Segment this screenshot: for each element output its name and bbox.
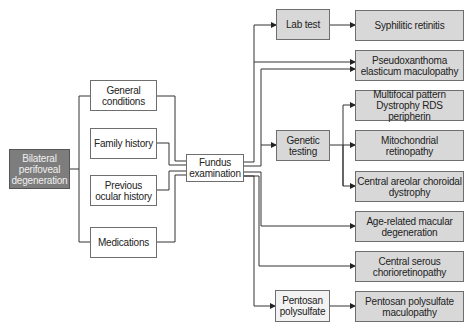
central-areolar-choroidal-dystrophy-box: Central areolar choroidal dystrophy	[355, 171, 464, 202]
multifocal-pattern-dystrophy-box: Multifocal pattern Dystrophy RDS periphe…	[355, 90, 464, 121]
pentosan-polysulfate-maculopathy-box: Pentosan polysulfate maculopathy	[355, 291, 464, 322]
syphilitic-retinitis-box: Syphilitic retinitis	[355, 10, 464, 41]
pentosan-line-1: Pentosan	[282, 295, 323, 306]
outcome-ppm-line-2: maculopathy	[382, 307, 437, 318]
start-label-line-1: Bilateral	[22, 153, 56, 164]
central-serous-chorioretinopathy-box: Central serous chorioretinopathy	[355, 251, 464, 282]
lab-line-1: Lab test	[286, 19, 320, 30]
lab-test-box: Lab test	[276, 9, 330, 40]
outcome-csc-line-2: chorioretinopathy	[373, 267, 446, 278]
previous-ocular-history-box: Previous ocular history	[90, 175, 157, 206]
general-conditions-box: General conditions	[90, 80, 157, 111]
family-line-1: Family history	[94, 138, 153, 149]
previous-line-2: ocular history	[95, 191, 152, 202]
genetic-testing-box: Genetic testing	[276, 130, 330, 161]
medications-box: Medications	[90, 227, 157, 258]
general-line-2: conditions	[102, 96, 145, 107]
pseudoxanthoma-elasticum-box: Pseudoxanthoma elasticum maculopathy	[355, 50, 464, 81]
mitochondrial-retinopathy-box: Mitochondrial retinopathy	[355, 130, 464, 161]
bilateral-perifoveal-degeneration-box: Bilateral perifoveal degeneration	[9, 149, 70, 189]
outcome-csc-line-1: Central serous	[378, 256, 440, 267]
hub-line-2: examination	[189, 168, 241, 179]
previous-line-1: Previous	[105, 180, 142, 191]
outcome-mito-line-2: retinopathy	[386, 146, 433, 157]
pentosan-polysulfate-box: Pentosan polysulfate	[275, 290, 330, 322]
outcome-amd-line-2: degeneration	[382, 227, 438, 238]
outcome-pxe-line-1: Pseudoxanthoma	[372, 55, 447, 66]
outcome-cacd-line-2: dystrophy	[389, 187, 431, 198]
outcome-mito-line-1: Mitochondrial	[381, 135, 438, 146]
family-history-box: Family history	[90, 128, 157, 159]
outcome-amd-line-1: Age-related macular	[366, 216, 452, 227]
outcome-ppm-line-1: Pentosan polysulfate	[365, 296, 454, 307]
outcome-multifocal-line-2: Dystrophy RDS peripherin	[376, 100, 442, 122]
genetic-line-1: Genetic	[286, 135, 319, 146]
start-label-line-2: perifoveal	[19, 164, 60, 175]
outcome-multifocal-line-1: Multifocal pattern	[373, 89, 446, 100]
genetic-line-2: testing	[289, 146, 317, 157]
outcome-pxe-line-2: elasticum maculopathy	[361, 66, 459, 77]
general-line-1: General	[106, 85, 140, 96]
age-related-macular-degeneration-box: Age-related macular degeneration	[355, 211, 464, 242]
start-label-line-3: degeneration	[12, 175, 68, 186]
hub-line-1: Fundus	[199, 157, 231, 168]
pentosan-line-2: polysulfate	[280, 306, 326, 317]
outcome-cacd-line-1: Central areolar choroidal	[357, 176, 462, 187]
outcome-syphilitic-line-1: Syphilitic retinitis	[375, 20, 445, 31]
medications-line-1: Medications	[98, 237, 149, 248]
fundus-examination-box: Fundus examination	[186, 154, 244, 182]
